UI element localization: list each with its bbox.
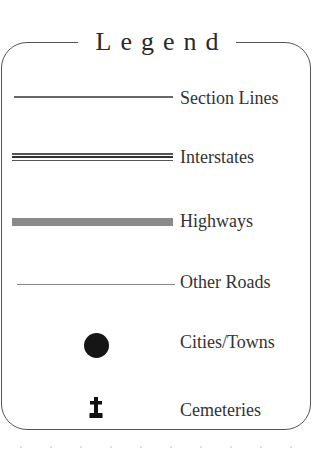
legend-title: Legend — [87, 27, 228, 57]
page-bleed-through — [20, 446, 310, 448]
legend-title-wrap: Legend — [78, 22, 236, 62]
section-line-icon — [14, 96, 173, 98]
cemetery-cross-icon — [88, 397, 104, 419]
interstate-line-icon — [12, 153, 173, 161]
city-dot-icon — [84, 333, 109, 358]
legend-label-cities-towns: Cities/Towns — [180, 332, 275, 352]
legend-label-section-lines: Section Lines — [180, 88, 278, 108]
legend-label-highways: Highways — [180, 211, 253, 231]
legend-label-other-roads: Other Roads — [180, 272, 270, 292]
highway-band-icon — [12, 218, 173, 226]
legend-label-cemeteries: Cemeteries — [180, 400, 261, 420]
other-road-line-icon — [17, 284, 175, 285]
legend-label-interstates: Interstates — [180, 147, 254, 167]
